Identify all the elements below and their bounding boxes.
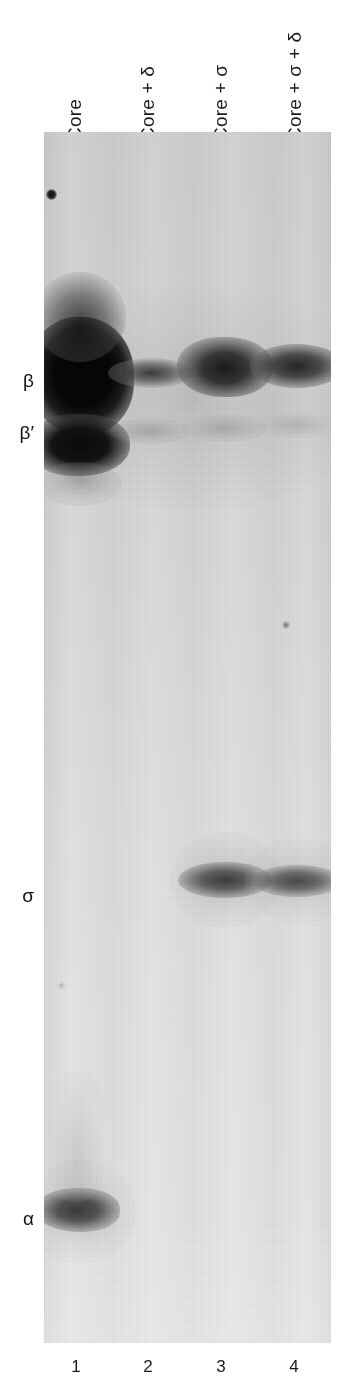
gel-autoradiograph — [44, 132, 331, 1343]
lane-number-3: 3 — [209, 1358, 233, 1375]
band-beta-lane-4 — [250, 344, 331, 388]
band-beta-lane-2 — [108, 358, 194, 388]
row-label-beta: β — [0, 371, 34, 390]
band-alpha-lane-1 — [44, 1188, 120, 1232]
band-beta-lane-1-smear — [44, 272, 126, 362]
band-sigma-lane-4 — [252, 865, 331, 897]
band-beta-prime-lane-2 — [110, 418, 190, 444]
band-sigma-lane-3-halo — [170, 832, 282, 928]
artifact-speck-top-left — [46, 189, 57, 200]
band-sigma-lane-4-halo — [244, 838, 331, 924]
lane-number-4: 4 — [282, 1358, 306, 1375]
lane-number-2: 2 — [136, 1358, 160, 1375]
artifact-speck-lane-1-low — [58, 982, 65, 989]
row-label-sigma: σ — [0, 886, 34, 905]
lane-label-2: Core + δ — [138, 66, 157, 141]
gel-haze-lower — [44, 1222, 331, 1343]
lane-label-3: Core + σ — [211, 65, 230, 141]
lane-number-1: 1 — [64, 1358, 88, 1375]
band-beta-prime-lane-1-tail — [44, 462, 122, 506]
gel-haze-upper — [44, 282, 331, 512]
gel-figure: Core Core + δ Core + σ Core + σ + δ β β′… — [0, 0, 343, 1393]
lane-1-vertical-streak — [48, 1072, 104, 1202]
band-sigma-lane-3 — [178, 862, 272, 898]
band-beta-lane-3 — [177, 337, 273, 397]
band-beta-prime-lane-3 — [182, 414, 268, 442]
band-beta-prime-lane-1 — [44, 414, 130, 476]
row-label-beta-prime: β′ — [0, 423, 34, 442]
lane-label-4: Core + σ + δ — [285, 32, 304, 141]
artifact-speck-lane-4 — [282, 621, 290, 629]
row-label-alpha: α — [0, 1209, 34, 1228]
band-alpha-lane-1-halo — [44, 1160, 136, 1264]
band-beta-lane-1 — [44, 317, 134, 435]
band-beta-prime-lane-4 — [254, 412, 331, 438]
